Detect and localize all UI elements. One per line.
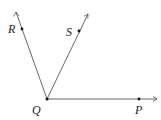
ray-qr <box>16 12 47 99</box>
point-p <box>138 98 141 101</box>
ray-qr-arrowhead <box>14 12 19 17</box>
angle-diagram: R S Q P <box>0 0 161 120</box>
point-s <box>78 30 81 33</box>
label-q: Q <box>32 103 41 117</box>
point-q <box>46 98 49 101</box>
label-p: P <box>134 103 143 117</box>
label-s: S <box>66 25 72 39</box>
label-r: R <box>7 22 16 36</box>
point-r <box>21 28 24 31</box>
